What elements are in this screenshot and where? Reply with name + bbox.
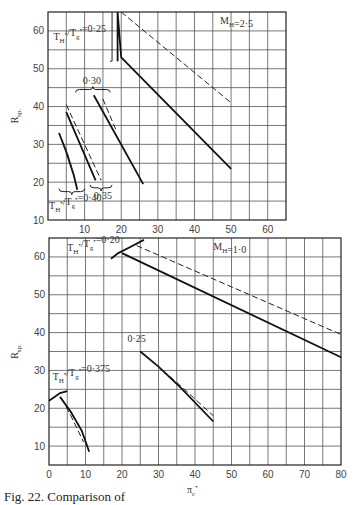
bottom-chart-mh-1-0: 01020304050607080102030405060Rsp.πc•MH=1… (9, 234, 347, 498)
figure-caption: Fig. 22. Comparison of (4, 489, 125, 505)
curve-solid (94, 95, 143, 184)
y-axis-label: Rsp. (9, 108, 23, 123)
x-tick-label: 0 (46, 469, 52, 480)
x-tick-label: 20 (116, 469, 128, 480)
curve-solid (66, 112, 95, 180)
y-tick-label: 10 (34, 441, 46, 452)
x-tick-label: 70 (299, 469, 311, 480)
x-tick-label: 60 (262, 469, 274, 480)
y-tick-label: 30 (34, 365, 46, 376)
x-tick-label: 30 (153, 469, 165, 480)
x-tick-label: 50 (226, 469, 238, 480)
y-tick-label: 30 (33, 139, 45, 150)
x-tick-label: 40 (189, 469, 201, 480)
curve-solid (49, 391, 67, 401)
y-tick-label: 40 (33, 101, 45, 112)
x-tick-label: 80 (335, 469, 347, 480)
x-tick-label: 10 (79, 224, 91, 235)
x-tick-label: 60 (262, 224, 274, 235)
y-tick-label: 60 (34, 251, 46, 262)
y-tick-label: 20 (33, 177, 45, 188)
mach-number-annotation: MH=2·5 (220, 15, 253, 29)
curve-label: TH•/Tg•=0·375 (53, 363, 110, 385)
svg-text:Rsp.: Rsp. (9, 108, 23, 123)
mach-number-annotation: MH=1·0 (213, 241, 246, 255)
curve-solid (59, 133, 77, 190)
brace-marker (110, 12, 112, 61)
x-tick-label: 10 (80, 469, 92, 480)
x-tick-label: 40 (189, 224, 201, 235)
y-tick-label: 60 (33, 25, 45, 36)
x-tick-label: 50 (226, 224, 238, 235)
curve-label: 0·25 (127, 333, 145, 344)
plot-frame (48, 12, 286, 220)
x-axis-label: πc• (187, 483, 198, 498)
x-tick-label: 30 (152, 224, 164, 235)
top-chart-mh-2-5: 102030405060102030405060Rsp.MH=2·5TH•/Tg… (9, 12, 286, 235)
y-tick-label: 10 (33, 215, 45, 226)
curve-label: TH•/Tg•=0·25 (53, 23, 105, 45)
y-tick-label: 50 (34, 289, 46, 300)
grid-lines (48, 12, 286, 220)
curve-label: TH•/Tg•=0·40 (49, 192, 101, 214)
curve-dashed (137, 246, 341, 335)
y-tick-label: 40 (34, 327, 46, 338)
svg-text:Rsp.: Rsp. (9, 344, 23, 359)
y-tick-label: 50 (33, 63, 45, 74)
curve-label: 0·30 (83, 75, 101, 86)
y-axis-label: Rsp. (9, 344, 23, 359)
y-tick-label: 20 (34, 403, 46, 414)
curve-solid (118, 12, 232, 169)
grid-lines (49, 238, 341, 465)
